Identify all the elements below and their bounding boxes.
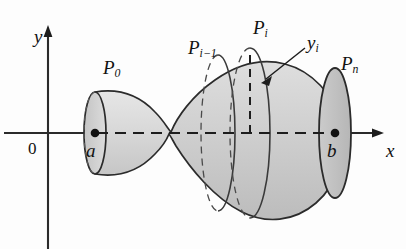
label-yi: yi: [307, 33, 319, 55]
point-label-a: a: [86, 141, 96, 160]
label-pi-1: Pi−1: [188, 38, 217, 60]
axis-label-x: x: [386, 141, 394, 160]
origin-label: 0: [28, 140, 37, 157]
label-pn-sub: n: [353, 63, 359, 76]
label-p0-sub: 0: [115, 67, 121, 80]
label-pi-base: P: [253, 17, 265, 38]
point-label-b: b: [327, 141, 337, 160]
label-p0: P0: [103, 58, 121, 80]
label-pn: Pn: [341, 54, 359, 76]
point-marker-b: [331, 129, 340, 138]
label-yi-sub: i: [315, 42, 318, 55]
label-pi-sub: i: [265, 27, 268, 40]
label-pi-1-base: P: [188, 37, 200, 58]
label-pn-base: P: [341, 53, 353, 74]
label-pi: Pi: [253, 18, 268, 40]
axis-label-y: y: [34, 27, 42, 46]
label-pi-1-sub: i−1: [200, 47, 217, 60]
point-marker-a: [91, 129, 100, 138]
axis-y: [44, 25, 53, 249]
solid-body-bulge: [170, 62, 343, 220]
label-p0-base: P: [103, 57, 115, 78]
figure-surface-of-revolution: y x 0 a b P0 Pi−1 Pi yi Pn: [0, 0, 406, 249]
